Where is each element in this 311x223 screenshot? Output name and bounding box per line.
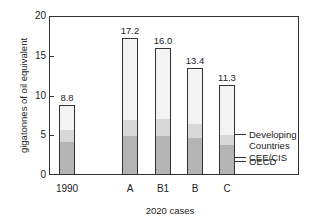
bar-segment-developing-countries [188, 70, 202, 125]
bar-value-label: 13.4 [180, 55, 210, 66]
bar-segment-oecd [60, 142, 74, 174]
bar-value-label: 16.0 [148, 35, 178, 46]
bar-segment-cee-cis [156, 119, 170, 136]
y-tick-label: 10 [28, 90, 46, 101]
y-tick [49, 56, 54, 57]
legend-developing-line2: Countries [249, 140, 297, 151]
bar-segment-developing-countries [123, 39, 137, 120]
bar-segment-cee-cis [60, 130, 74, 142]
bar-value-label: 11.3 [212, 72, 242, 83]
bar-segment-developing-countries [220, 86, 234, 135]
legend-developing-line1: Developing [249, 129, 297, 140]
x-axis-label: 2020 cases [130, 205, 210, 216]
legend-developing: Developing Countries [249, 129, 297, 151]
x-tick-label: A [115, 183, 145, 194]
x-tick-label: 1990 [52, 183, 82, 194]
x-tick-label: B [180, 183, 210, 194]
bar-b [187, 68, 203, 175]
legend-leader-cee [235, 157, 246, 158]
bar-segment-cee-cis [188, 124, 202, 138]
bar-segment-cee-cis [123, 120, 137, 136]
bar-segment-oecd [188, 138, 202, 174]
bar-segment-oecd [123, 136, 137, 174]
y-tick-label: 0 [28, 169, 46, 180]
legend-leader-oecd [235, 161, 246, 162]
y-tick [49, 135, 54, 136]
y-axis-label: gigatonnes of oil equivalent [18, 21, 29, 171]
bar-value-label: 8.8 [52, 92, 82, 103]
bar-segment-developing-countries [156, 49, 170, 119]
legend-leader-developing [235, 134, 246, 135]
y-tick-label: 20 [28, 10, 46, 21]
y-tick-label: 5 [28, 129, 46, 140]
bar-c [219, 85, 235, 175]
x-tick-label: B1 [148, 183, 178, 194]
y-tick-label: 15 [28, 50, 46, 61]
bar-value-label: 17.2 [115, 25, 145, 36]
bar-segment-cee-cis [220, 135, 234, 145]
bar-a [122, 38, 138, 175]
legend-oecd: OECD [249, 156, 276, 167]
bar-segment-oecd [220, 145, 234, 174]
bar-1990 [59, 105, 75, 175]
bar-b1 [155, 48, 171, 175]
bar-segment-developing-countries [60, 106, 74, 130]
x-tick-label: C [212, 183, 242, 194]
bar-segment-oecd [156, 136, 170, 174]
